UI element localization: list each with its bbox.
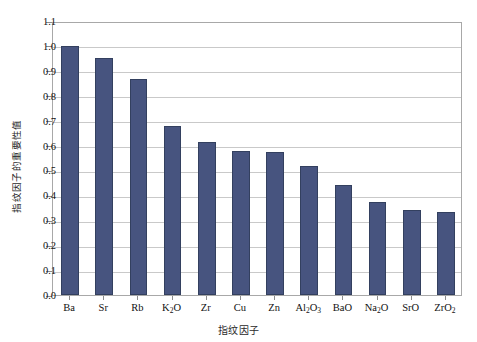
x-tick-label: K2O bbox=[155, 301, 189, 315]
x-tick-label: Cu bbox=[223, 301, 257, 314]
y-tick-label: 1.0 bbox=[26, 42, 56, 52]
bar bbox=[232, 151, 250, 295]
bar bbox=[61, 46, 79, 295]
y-tick-label: 0.8 bbox=[26, 92, 56, 102]
bar bbox=[437, 212, 455, 295]
gridline bbox=[53, 222, 461, 223]
x-tick-label: Rb bbox=[120, 301, 154, 314]
x-axis-title: 指纹因子 bbox=[0, 322, 477, 337]
x-tick-label: SrO bbox=[394, 301, 428, 314]
bar bbox=[266, 152, 284, 295]
gridline bbox=[53, 247, 461, 248]
x-tick-label: Na2O bbox=[360, 301, 394, 315]
y-tick-label: 0.5 bbox=[26, 166, 56, 176]
x-tick-label: Sr bbox=[86, 301, 120, 314]
bar bbox=[403, 210, 421, 295]
bar bbox=[300, 166, 318, 295]
x-tick-label: BaO bbox=[325, 301, 359, 314]
x-tick-label: ZrO2 bbox=[428, 301, 462, 315]
x-tick-mark bbox=[240, 296, 241, 300]
gridline bbox=[53, 122, 461, 123]
x-tick-mark bbox=[308, 296, 309, 300]
bar bbox=[164, 126, 182, 295]
x-tick-mark bbox=[445, 296, 446, 300]
bar bbox=[95, 58, 113, 295]
x-tick-mark bbox=[274, 296, 275, 300]
x-tick-mark bbox=[377, 296, 378, 300]
x-tick-mark bbox=[342, 296, 343, 300]
y-tick-label: 1.1 bbox=[26, 17, 56, 27]
gridline bbox=[53, 97, 461, 98]
plot-area bbox=[52, 22, 462, 296]
y-tick-label: 0.4 bbox=[26, 191, 56, 201]
x-tick-mark bbox=[172, 296, 173, 300]
x-tick-label: Al2O3 bbox=[291, 301, 325, 315]
y-tick-label: 0.0 bbox=[26, 291, 56, 301]
gridline bbox=[53, 47, 461, 48]
x-tick-mark bbox=[137, 296, 138, 300]
y-tick-label: 0.9 bbox=[26, 67, 56, 77]
bar bbox=[198, 142, 216, 295]
chart-figure: 指纹因子的重要性值 0.00.10.20.30.40.50.60.70.80.9… bbox=[0, 0, 477, 342]
y-axis-title: 指纹因子的重要性值 bbox=[10, 96, 24, 236]
gridline bbox=[53, 172, 461, 173]
gridline bbox=[53, 197, 461, 198]
gridline bbox=[53, 72, 461, 73]
y-tick-label: 0.1 bbox=[26, 266, 56, 276]
y-tick-label: 0.6 bbox=[26, 142, 56, 152]
x-tick-mark bbox=[103, 296, 104, 300]
bar bbox=[335, 185, 353, 295]
y-tick-label: 0.3 bbox=[26, 216, 56, 226]
y-tick-label: 0.2 bbox=[26, 241, 56, 251]
bar bbox=[369, 202, 387, 295]
x-tick-label: Ba bbox=[52, 301, 86, 314]
gridline bbox=[53, 147, 461, 148]
x-tick-mark bbox=[411, 296, 412, 300]
gridline bbox=[53, 272, 461, 273]
y-tick-label: 0.7 bbox=[26, 117, 56, 127]
x-tick-label: Zn bbox=[257, 301, 291, 314]
x-tick-mark bbox=[206, 296, 207, 300]
bar bbox=[130, 79, 148, 295]
x-tick-label: Zr bbox=[189, 301, 223, 314]
x-tick-mark bbox=[69, 296, 70, 300]
